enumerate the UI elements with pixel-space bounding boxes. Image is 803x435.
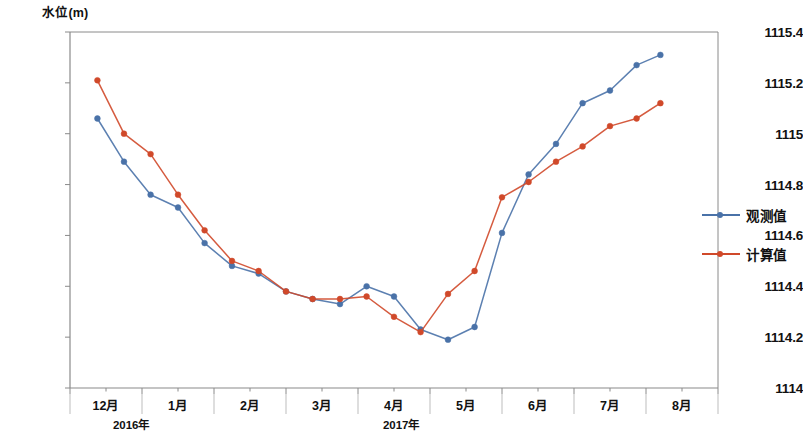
legend-swatch-calculated (702, 249, 740, 259)
data-point-observed (364, 283, 370, 289)
data-point-calculated (337, 296, 343, 302)
data-point-calculated (499, 194, 505, 200)
data-point-calculated (391, 314, 397, 320)
legend-marker-observed (717, 212, 723, 218)
data-point-observed (553, 141, 559, 147)
data-point-calculated (634, 116, 640, 122)
data-point-calculated (364, 294, 370, 300)
data-point-calculated (121, 131, 127, 137)
data-point-calculated (553, 159, 559, 165)
data-point-calculated (445, 291, 451, 297)
plot-area (0, 0, 803, 435)
data-point-calculated (472, 268, 478, 274)
data-point-calculated (526, 179, 532, 185)
data-point-calculated (418, 329, 424, 335)
data-point-calculated (202, 227, 208, 233)
legend-marker-calculated (717, 251, 723, 257)
chart-legend: 观测值 计算值 (702, 205, 787, 264)
series-line-observed (97, 55, 660, 340)
data-point-observed (445, 337, 451, 343)
legend-label-observed: 观测值 (746, 205, 787, 225)
legend-item-observed: 观测值 (702, 205, 787, 225)
data-point-observed (658, 52, 664, 58)
data-point-calculated (310, 296, 316, 302)
data-point-calculated (607, 123, 613, 129)
series-line-calculated (97, 80, 660, 332)
legend-label-calculated: 计算值 (746, 244, 787, 264)
data-point-calculated (148, 151, 154, 157)
data-point-observed (634, 62, 640, 68)
data-point-calculated (658, 100, 664, 106)
data-point-observed (607, 88, 613, 94)
data-point-observed (95, 116, 101, 122)
data-point-observed (121, 159, 127, 165)
data-point-calculated (95, 77, 101, 83)
data-point-observed (391, 294, 397, 300)
data-point-calculated (229, 258, 235, 264)
data-point-calculated (283, 289, 289, 295)
legend-item-calculated: 计算值 (702, 244, 787, 264)
data-point-calculated (580, 144, 586, 150)
data-point-observed (148, 192, 154, 198)
data-point-calculated (175, 192, 181, 198)
water-level-line-chart: 水位(m) 11141114.21114.41114.61114.8111511… (0, 0, 803, 435)
data-point-observed (175, 205, 181, 211)
legend-swatch-observed (702, 210, 740, 220)
data-point-observed (580, 100, 586, 106)
data-point-calculated (256, 268, 262, 274)
data-point-observed (202, 240, 208, 246)
data-point-observed (526, 172, 532, 178)
data-point-observed (499, 230, 505, 236)
data-point-observed (472, 324, 478, 330)
